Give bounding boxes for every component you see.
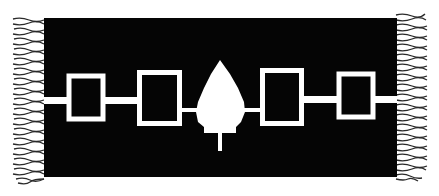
hiawatha-belt-image	[0, 0, 439, 196]
